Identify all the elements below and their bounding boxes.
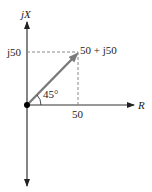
real-axis-label: R — [137, 99, 145, 111]
x-tick-label: 50 — [72, 108, 84, 120]
angle-label: 45° — [43, 88, 58, 100]
origin-dot — [24, 102, 30, 108]
angle-arc — [37, 95, 41, 105]
y-tick-label: j50 — [6, 46, 22, 58]
imaginary-axis-label: jX — [19, 8, 32, 20]
phasor-label: 50 + j50 — [80, 44, 117, 56]
phasor-diagram: jX R j50 50 50 + j50 45° — [0, 0, 152, 192]
